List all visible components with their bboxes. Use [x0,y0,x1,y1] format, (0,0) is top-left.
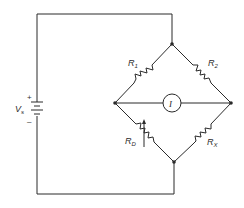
plus-sign: + [27,93,32,102]
wire-top [37,14,172,102]
node-bottom [172,160,176,164]
r1-label: R1 [128,58,138,69]
battery-source: + – Vs [15,93,43,126]
resistor-r2: R2 [172,44,231,103]
node-right [229,101,233,105]
rd-label: RD [125,136,137,147]
minus-sign: – [27,117,32,126]
source-label: Vs [15,104,24,115]
wheatstone-bridge-diagram: + – Vs R1 R2 RD RX I [0,0,244,208]
resistor-rd-variable: RD [115,103,174,162]
resistor-r1: R1 [115,44,172,103]
meter-label: I [168,99,173,109]
current-meter: I [115,94,231,112]
arrow-head-icon [142,119,146,124]
node-top [170,42,174,46]
r2-label: R2 [208,58,219,69]
wire-bottom [37,116,174,194]
node-left [113,101,117,105]
rx-label: RX [207,137,219,148]
resistor-rx: RX [174,103,231,162]
